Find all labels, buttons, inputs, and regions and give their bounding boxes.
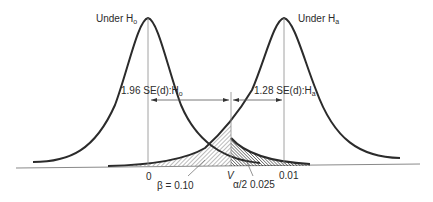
power-diagram bbox=[0, 0, 433, 202]
h0-curve-label: Under Ho bbox=[96, 14, 137, 25]
ha-span-label: 1.28 SE(d):Ha bbox=[254, 86, 316, 97]
alpha-area bbox=[231, 138, 310, 166]
ha-mean-tick-label: 0.01 bbox=[279, 171, 298, 181]
beta-label: β = 0.10 bbox=[157, 181, 194, 191]
alpha-half-label: α/2 0.025 bbox=[233, 180, 275, 190]
ha-curve-label: Under Ha bbox=[298, 14, 339, 25]
h0-mean-tick-label: 0 bbox=[146, 172, 152, 182]
h0-span-label: 1.96 SE(d):Ho bbox=[121, 86, 183, 97]
